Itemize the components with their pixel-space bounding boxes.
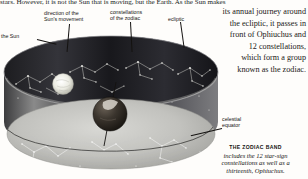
label-the-sun: the Sun [1, 33, 19, 39]
book-page: stars. However, it is not the Sun that i… [0, 0, 308, 179]
label-line: Sun's movement [44, 16, 83, 22]
the-sun-sphere [53, 74, 74, 95]
caption-line: thirteenth, Ophiuchus. [205, 167, 306, 175]
label-constellations-of-the-zodiac: constellations of the zodiac [110, 9, 142, 21]
label-line: of the zodiac [110, 15, 142, 21]
paragraph-line: its annual journey around [194, 6, 306, 18]
label-ecliptic: ecliptic [168, 16, 184, 22]
label-direction-of-sun-movement: direction of the Sun's movement [44, 10, 83, 22]
caption-title: THE ZODIAC BAND [205, 144, 306, 151]
zodiac-band-illustration [0, 26, 222, 179]
label-celestial-equator: celestial equator [222, 116, 241, 128]
label-line: equator [222, 122, 241, 128]
caption-zodiac-band: THE ZODIAC BAND includes the 12 star-sig… [205, 144, 306, 174]
caption-line: includes the 12 star-sign [205, 152, 306, 160]
caption-line: constellations as well as a [205, 159, 306, 167]
caption-body: includes the 12 star-sign constellations… [205, 152, 306, 175]
